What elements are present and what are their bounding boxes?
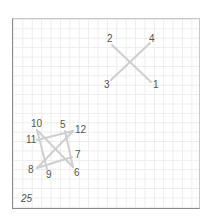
point-5[interactable]: 5 xyxy=(60,120,66,130)
point-6[interactable]: 6 xyxy=(74,168,80,178)
point-12[interactable]: 12 xyxy=(75,125,86,135)
point-3[interactable]: 3 xyxy=(104,80,110,90)
point-11[interactable]: 11 xyxy=(26,135,36,145)
point-8[interactable]: 8 xyxy=(28,165,34,175)
point-1[interactable]: 1 xyxy=(153,80,159,90)
point-4[interactable]: 4 xyxy=(149,34,155,44)
point-2[interactable]: 2 xyxy=(107,34,113,44)
level-number: 25 xyxy=(21,194,32,204)
point-7[interactable]: 7 xyxy=(75,150,81,160)
edge-2-1 xyxy=(112,45,151,82)
point-9[interactable]: 9 xyxy=(46,170,52,180)
edges-layer xyxy=(0,0,209,224)
point-10[interactable]: 10 xyxy=(31,119,42,129)
